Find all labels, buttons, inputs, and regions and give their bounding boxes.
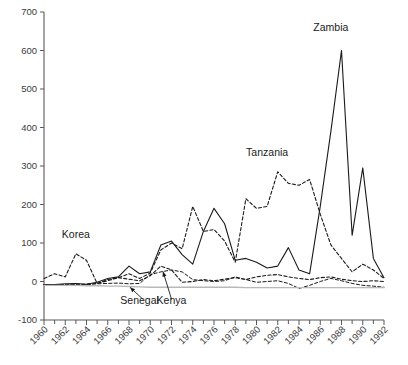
y-tick-label: 100 — [21, 237, 37, 248]
y-tick-label: 300 — [21, 160, 37, 171]
senegal-label: Senegal — [120, 294, 159, 306]
zambia-label: Zambia — [313, 21, 348, 33]
x-tick-label: 1982 — [261, 324, 284, 347]
tanzania-label: Tanzania — [246, 146, 288, 158]
x-tick-label: 1974 — [176, 324, 199, 347]
x-tick-label: 1962 — [48, 324, 71, 347]
y-tick-label: 500 — [21, 83, 37, 94]
y-tick-label: 400 — [21, 122, 37, 133]
x-tick-label: 1968 — [112, 324, 135, 347]
x-tick-label: 1972 — [155, 324, 178, 347]
x-tick-label: 1970 — [133, 324, 156, 347]
y-tick-label: 0 — [32, 276, 37, 287]
chart-container: -100010020030040050060070019601962196419… — [0, 0, 408, 365]
x-tick-label: 1960 — [27, 324, 50, 347]
x-tick-label: 1988 — [325, 324, 348, 347]
x-tick-label: 1964 — [70, 324, 93, 347]
x-tick-label: 1966 — [91, 324, 114, 347]
x-tick-label: 1992 — [367, 324, 390, 347]
series-line-zambia — [44, 51, 384, 285]
y-tick-label: 700 — [21, 6, 37, 17]
y-tick-label: 600 — [21, 45, 37, 56]
line-chart: -100010020030040050060070019601962196419… — [0, 0, 408, 365]
x-tick-label: 1978 — [218, 324, 241, 347]
x-tick-label: 1984 — [282, 324, 305, 347]
x-tick-label: 1980 — [240, 324, 263, 347]
y-tick-label: -100 — [18, 314, 37, 325]
series-line-tanzania — [44, 172, 384, 285]
series-line-senegal — [44, 285, 384, 287]
y-tick-label: 200 — [21, 199, 37, 210]
x-tick-label: 1976 — [197, 324, 220, 347]
korea-label: Korea — [62, 228, 90, 240]
x-tick-label: 1990 — [346, 324, 369, 347]
kenya-label: Kenya — [157, 294, 187, 306]
x-tick-label: 1986 — [303, 324, 326, 347]
kenya-leader-arrow — [162, 271, 166, 276]
